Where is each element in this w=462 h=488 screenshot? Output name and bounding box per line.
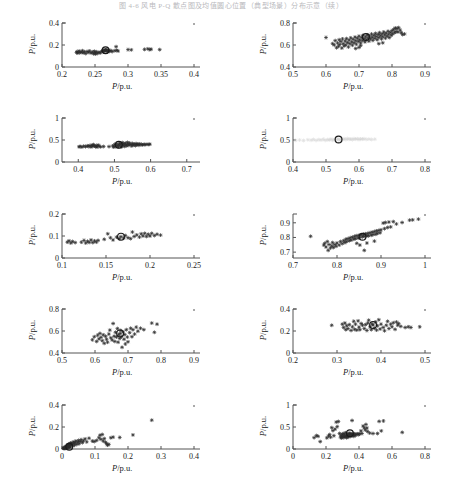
subplot-2-ytick-2: 0.8 <box>271 19 290 28</box>
subplot-grid: 0.20.250.30.350.400.20.4P/p.u.P/p.u.0.50… <box>0 11 462 488</box>
subplot-5-ytick-2: 0.2 <box>40 209 59 218</box>
figure-caption: 图 4-6 风电 P-Q 散点图及均值圆心位置（典型场景）分布示意（续） <box>0 0 462 11</box>
subplot-7-xaxis-label: P/p.u. <box>112 367 132 377</box>
subplot-1-xtick-3: 0.35 <box>154 70 168 79</box>
subplot-7-xtick-2: 0.7 <box>123 356 133 365</box>
subplot-6-xaxis-label: P/p.u. <box>343 272 363 282</box>
subplot-1-xaxis-label: P/p.u. <box>112 81 132 91</box>
subplot-4-ytick-1: 0.5 <box>271 136 290 145</box>
subplot-5-ytick-0: 0 <box>40 253 59 262</box>
subplot-1-xtick-1: 0.25 <box>88 70 102 79</box>
subplot-1-ytick-0: 0 <box>40 63 59 72</box>
subplot-8-ytick-1: 0.2 <box>271 327 290 336</box>
subplot-5-xtick-2: 0.2 <box>145 261 155 270</box>
subplot-6-xtick-3: 1 <box>423 261 427 270</box>
subplot-9-xtick-3: 0.3 <box>156 452 166 461</box>
subplot-10-xtick-0: 0 <box>291 452 295 461</box>
subplot-4-ytick-0: 0 <box>271 158 290 167</box>
subplot-6: 0.70.80.910.70.80.9P/p.u.P/p.u. <box>231 202 462 297</box>
subplot-3-xaxis-label: P/p.u. <box>112 176 132 186</box>
subplot-2-xtick-3: 0.8 <box>387 70 397 79</box>
subplot-10-ytick-2: 1 <box>271 400 290 409</box>
subplot-3-ytick-1: 0.5 <box>40 136 59 145</box>
subplot-10-ytick-1: 0.5 <box>271 422 290 431</box>
subplot-2-ytick-1: 0.6 <box>271 41 290 50</box>
subplot-8: 0.20.30.40.500.20.4P/p.u.P/p.u. <box>231 297 462 392</box>
subplot-9-ytick-2: 0.4 <box>40 400 59 409</box>
subplot-7-ytick-0: 0.4 <box>40 349 59 358</box>
subplot-10-ytick-0: 0 <box>271 444 290 453</box>
subplot-4-xaxis-label: P/p.u. <box>343 176 363 186</box>
subplot-3-xtick-3: 0.7 <box>182 165 192 174</box>
subplot-6-xtick-2: 0.9 <box>376 261 386 270</box>
subplot-10-yaxis-label: P/p.u. <box>258 409 268 443</box>
subplot-9-xtick-1: 0.1 <box>90 452 100 461</box>
subplot-4-xtick-2: 0.6 <box>354 165 364 174</box>
subplot-8-ytick-0: 0 <box>271 349 290 358</box>
subplot-2-xtick-2: 0.7 <box>354 70 364 79</box>
subplot-10-xtick-2: 0.4 <box>354 452 364 461</box>
subplot-3-ytick-0: 0 <box>40 158 59 167</box>
subplot-8-ytick-2: 0.4 <box>271 305 290 314</box>
subplot-3-xtick-0: 0.4 <box>73 165 83 174</box>
subplot-10-xtick-3: 0.6 <box>387 452 397 461</box>
subplot-10-xtick-1: 0.2 <box>321 452 331 461</box>
subplot-5-yaxis-label: P/p.u. <box>27 218 37 252</box>
subplot-9-ytick-0: 0 <box>40 444 59 453</box>
subplot-9-xaxis-label: P/p.u. <box>112 463 132 473</box>
subplot-2: 0.50.60.70.80.90.40.60.8P/p.u.P/p.u. <box>231 11 462 106</box>
subplot-2-xtick-4: 0.9 <box>420 70 430 79</box>
subplot-6-ytick-0: 0.7 <box>271 247 290 256</box>
subplot-3: 0.40.50.60.700.51P/p.u.P/p.u. <box>0 106 231 201</box>
subplot-4-ytick-2: 1 <box>271 114 290 123</box>
subplot-7-ytick-2: 0.8 <box>40 305 59 314</box>
subplot-6-xtick-0: 0.7 <box>288 261 298 270</box>
subplot-7-yaxis-label: P/p.u. <box>27 313 37 347</box>
subplot-8-yaxis-label: P/p.u. <box>258 313 268 347</box>
subplot-10-xtick-4: 0.8 <box>420 452 430 461</box>
subplot-6-ytick-2: 0.9 <box>271 218 290 227</box>
subplot-5-xaxis-label: P/p.u. <box>112 272 132 282</box>
subplot-3-yaxis-label: P/p.u. <box>27 122 37 156</box>
subplot-9-xtick-4: 0.4 <box>189 452 199 461</box>
subplot-9: 00.10.20.30.400.20.4P/p.u.P/p.u. <box>0 393 231 488</box>
subplot-4-xtick-1: 0.5 <box>321 165 331 174</box>
subplot-5-ytick-1: 0.1 <box>40 231 59 240</box>
subplot-6-yaxis-label: P/p.u. <box>258 218 268 252</box>
subplot-4-yaxis-label: P/p.u. <box>258 122 268 156</box>
subplot-1-xtick-4: 0.4 <box>189 70 199 79</box>
subplot-9-yaxis-label: P/p.u. <box>27 409 37 443</box>
subplot-1: 0.20.250.30.350.400.20.4P/p.u.P/p.u. <box>0 11 231 106</box>
subplot-8-xtick-1: 0.3 <box>332 356 342 365</box>
subplot-9-ytick-1: 0.2 <box>40 422 59 431</box>
subplot-2-xtick-1: 0.6 <box>321 70 331 79</box>
subplot-6-ytick-1: 0.8 <box>271 233 290 242</box>
subplot-2-xaxis-label: P/p.u. <box>343 81 363 91</box>
subplot-6-xtick-1: 0.8 <box>332 261 342 270</box>
subplot-7-ytick-1: 0.6 <box>40 327 59 336</box>
subplot-8-xaxis-label: P/p.u. <box>343 367 363 377</box>
subplot-8-xtick-3: 0.5 <box>420 356 430 365</box>
subplot-1-yaxis-label: P/p.u. <box>27 27 37 61</box>
subplot-5-xtick-3: 0.25 <box>187 261 201 270</box>
subplot-9-xtick-2: 0.2 <box>123 452 133 461</box>
subplot-4-xtick-4: 0.8 <box>420 165 430 174</box>
subplot-2-yaxis-label: P/p.u. <box>258 27 268 61</box>
subplot-10-xaxis-label: P/p.u. <box>343 463 363 473</box>
subplot-10: 00.20.40.60.800.51P/p.u.P/p.u. <box>231 393 462 488</box>
subplot-1-ytick-2: 0.4 <box>40 19 59 28</box>
subplot-7-xtick-4: 0.9 <box>189 356 199 365</box>
subplot-7-xtick-3: 0.8 <box>156 356 166 365</box>
subplot-3-ytick-2: 1 <box>40 114 59 123</box>
subplot-3-xtick-2: 0.6 <box>146 165 156 174</box>
subplot-9-xtick-0: 0 <box>60 452 64 461</box>
subplot-5: 0.10.150.20.2500.10.2P/p.u.P/p.u. <box>0 202 231 297</box>
subplot-1-ytick-1: 0.2 <box>40 41 59 50</box>
subplot-7: 0.50.60.70.80.90.40.60.8P/p.u.P/p.u. <box>0 297 231 392</box>
subplot-5-xtick-1: 0.15 <box>99 261 113 270</box>
subplot-2-ytick-0: 0.4 <box>271 63 290 72</box>
subplot-7-xtick-1: 0.6 <box>90 356 100 365</box>
figure-container: 图 4-6 风电 P-Q 散点图及均值圆心位置（典型场景）分布示意（续） 0.2… <box>0 0 462 488</box>
subplot-1-xtick-2: 0.3 <box>123 70 133 79</box>
subplot-8-xtick-2: 0.4 <box>376 356 386 365</box>
